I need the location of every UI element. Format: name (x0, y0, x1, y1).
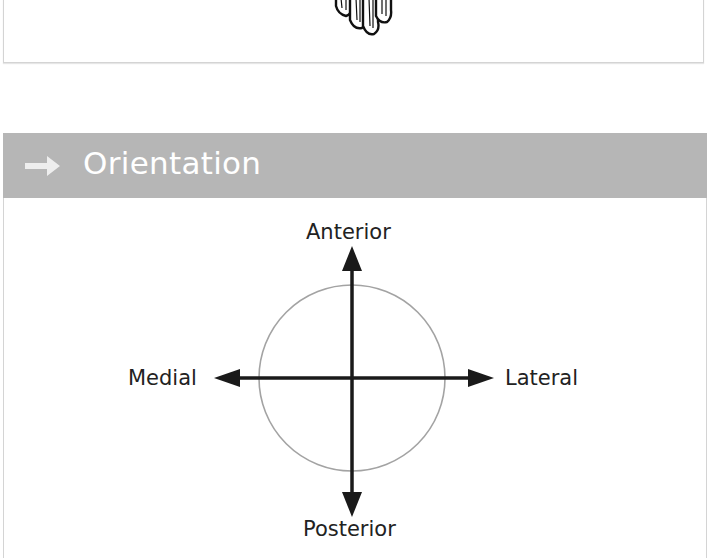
label-posterior: Posterior (303, 519, 396, 540)
arrow-right-icon (468, 369, 494, 387)
label-anterior: Anterior (306, 222, 391, 243)
label-medial: Medial (128, 368, 197, 389)
arrow-left-icon (214, 369, 240, 387)
label-lateral: Lateral (505, 368, 578, 389)
arrow-down-icon (342, 492, 362, 517)
arrow-up-icon (342, 246, 362, 271)
axis-arrows (214, 246, 494, 517)
